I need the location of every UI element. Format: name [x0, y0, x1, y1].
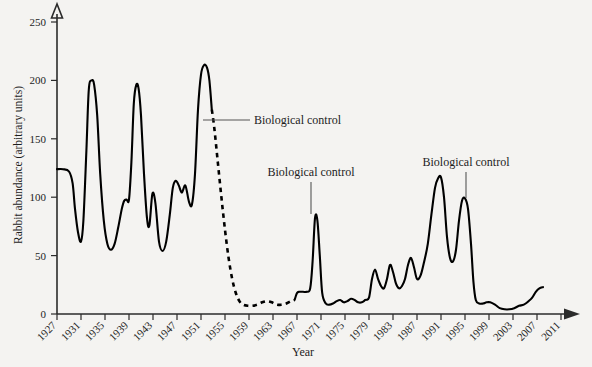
annotation-group-2: Biological control: [268, 165, 356, 214]
x-tick-label: 1979: [346, 319, 370, 343]
annotation-label-3: Biological control: [423, 155, 511, 169]
x-tick-label: 1975: [322, 319, 346, 343]
x-tick-label: 1995: [442, 319, 466, 343]
annotation-label-1: Biological control: [254, 113, 342, 127]
x-tick-label: 1947: [154, 319, 178, 343]
x-axis-title: Year: [292, 345, 314, 359]
x-tick-label: 1955: [202, 319, 226, 343]
x-tick-label: 1991: [418, 319, 442, 343]
x-tick-label: 1983: [370, 319, 394, 343]
y-tick-label: 0: [41, 308, 47, 320]
annotation-group-1: Biological control: [203, 113, 342, 127]
data-series-group: [57, 65, 543, 310]
y-tick-label: 200: [30, 74, 47, 86]
x-tick-label: 1951: [178, 319, 202, 343]
chart-canvas: 050100150200250 192719311935193919431947…: [0, 0, 592, 367]
series-line-2: [295, 176, 543, 310]
x-tick-label: 1939: [106, 319, 130, 343]
y-tick-label: 150: [30, 133, 47, 145]
x-tick-label: 1963: [250, 319, 274, 343]
rabbit-abundance-chart: 050100150200250 192719311935193919431947…: [0, 0, 592, 367]
x-tick-label: 2003: [490, 319, 514, 343]
x-tick-label: 1931: [58, 319, 82, 343]
x-tick-label: 2007: [514, 319, 538, 343]
x-tick-label: 1935: [82, 319, 106, 343]
series-line-0: [57, 65, 212, 251]
x-tick-label: 1959: [226, 319, 250, 343]
x-tick-label: 1987: [394, 319, 418, 343]
annotation-group-3: Biological control: [423, 155, 511, 198]
x-tick-label: 1943: [130, 319, 154, 343]
x-axis-arrowhead: [564, 309, 580, 320]
x-axis-ticks: [57, 314, 561, 320]
y-tick-label: 50: [35, 250, 47, 262]
y-axis-title: Rabbit abundance (arbitrary units): [12, 86, 25, 244]
y-tick-label: 100: [30, 191, 47, 203]
annotation-label-2: Biological control: [268, 165, 356, 179]
y-axis-tick-labels: 050100150200250: [30, 16, 47, 320]
x-tick-label: 1999: [466, 319, 490, 343]
x-tick-label: 1971: [298, 319, 322, 343]
y-axis-ticks: [51, 22, 57, 314]
series-line-1: [212, 110, 295, 306]
x-axis-tick-labels: 1927193119351939194319471951195519591963…: [34, 319, 562, 343]
y-tick-label: 250: [30, 16, 47, 28]
x-tick-label: 1927: [34, 319, 58, 343]
x-tick-label: 1967: [274, 319, 298, 343]
x-tick-label: 2011: [539, 319, 563, 343]
